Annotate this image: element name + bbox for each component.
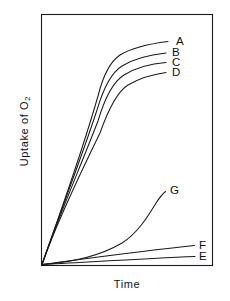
y-axis-label-container: Uptake of O2 xyxy=(0,0,40,266)
y-axis-label: Uptake of O2 xyxy=(18,61,30,201)
curve-label-e: E xyxy=(199,251,207,263)
y-axis-label-text: Uptake of O xyxy=(18,101,30,166)
y-axis-label-subscript: 2 xyxy=(23,96,32,101)
x-axis-label: Time xyxy=(41,278,213,290)
curve-label-d: D xyxy=(172,67,180,79)
curve-label-g: G xyxy=(170,185,179,197)
